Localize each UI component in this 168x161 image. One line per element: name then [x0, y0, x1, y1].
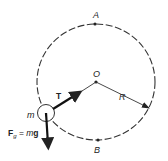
gravity-force-equals: = [17, 128, 27, 138]
circular-motion-diagram: A B O R m T Fg = mg [0, 0, 168, 161]
gravity-force-g: g [33, 128, 38, 138]
mass-label: m [27, 110, 35, 120]
gravity-label: Fg = mg [8, 128, 39, 139]
gravity-force-m: m [26, 128, 33, 138]
center-o-label: O [93, 69, 100, 79]
point-a-dot [93, 22, 96, 25]
point-a-label: A [92, 10, 99, 20]
tension-label: T [56, 91, 62, 101]
point-b-label: B [94, 145, 100, 155]
radius-label: R [119, 92, 126, 102]
string-line [82, 82, 96, 91]
point-b-dot [96, 138, 99, 141]
